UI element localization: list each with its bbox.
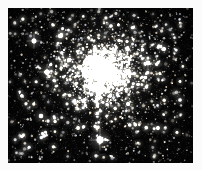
globular-cluster-starfield	[8, 8, 193, 163]
sky-image-frame	[8, 8, 193, 163]
astronomical-image-plate	[0, 0, 202, 170]
image-caption	[8, 163, 193, 170]
